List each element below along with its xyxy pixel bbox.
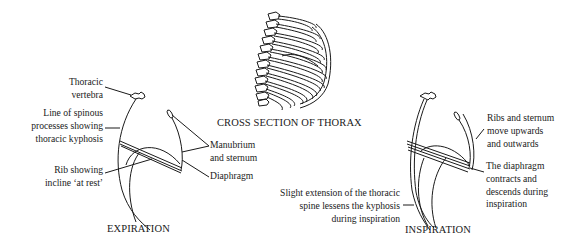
label-diaphragm-contracts: The diaphragm contracts and descends dur… <box>486 160 548 211</box>
inspiration-title: INSPIRATION <box>405 224 471 235</box>
inspiration-illustration <box>403 92 484 230</box>
label-diaphragm: Diaphragm <box>210 170 253 183</box>
cross-section-title: CROSS SECTION OF THORAX <box>217 117 362 128</box>
label-thoracic-vertebra: Thoracic vertebra <box>69 76 103 102</box>
label-ribs-sternum-move: Ribs and sternum move upwards and outwar… <box>487 112 554 150</box>
expiration-title: EXPIRATION <box>107 223 170 234</box>
expiration-illustration <box>105 87 209 230</box>
cross-section-ribcage-illustration <box>255 12 331 110</box>
label-spine-extension: Slight extension of the thoracic spine l… <box>280 187 400 225</box>
label-manubrium-and-sternum: Manubrium and sternum <box>210 139 257 165</box>
label-rib-incline-at-rest: Rib showing incline ‘at rest’ <box>45 164 103 190</box>
label-spinous-processes-line: Line of spinous processes showing thorac… <box>31 107 103 145</box>
